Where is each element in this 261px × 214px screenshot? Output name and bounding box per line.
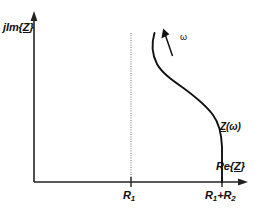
y-axis-label: jIm{Z} [3, 22, 34, 33]
x-tick-label-r1r2-sub1: 1 [213, 194, 217, 203]
x-axis-label-prefix: Re{ [216, 160, 234, 172]
x-tick-label-r1r2-base: R [205, 189, 213, 201]
x-axis-label-suffix: } [241, 160, 245, 172]
x-tick-label-r1r2-op: +R [217, 189, 231, 201]
y-axis-label-mid: Im{ [6, 21, 23, 33]
y-axis-label-suffix: } [29, 21, 33, 33]
x-axis-label: Re{Z} [216, 161, 245, 172]
x-tick-label-r1: R1 [123, 190, 135, 201]
x-tick-label-r1-base: R [123, 189, 131, 201]
x-axis-label-variable: Z [234, 160, 241, 172]
curve-label-suffix: (ω) [226, 121, 241, 132]
direction-label-omega: ω [180, 33, 187, 42]
x-tick-label-r1-sub: 1 [131, 194, 135, 203]
x-tick-label-r1-plus-r2: R1+R2 [205, 190, 236, 201]
x-tick-label-r1r2-sub2: 2 [231, 194, 235, 203]
impedance-nyquist-figure: jIm{Z} Re{Z} R1 R1+R2 Z(ω) ω [0, 0, 261, 214]
figure-canvas [0, 0, 261, 214]
curve-label-z-omega: Z(ω) [220, 122, 241, 132]
